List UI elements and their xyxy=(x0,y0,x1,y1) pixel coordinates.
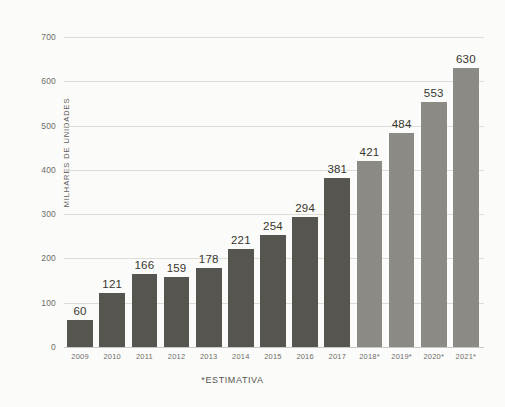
bar xyxy=(324,178,350,347)
y-axis-tick-label: 300 xyxy=(28,209,56,219)
y-axis-tick-label: 400 xyxy=(28,165,56,175)
bar-chart: MILHARES DE UNIDADES 0100200300400500600… xyxy=(0,0,505,407)
bar xyxy=(228,249,254,347)
plot-area: 60121166159178221254294381421484553630 xyxy=(64,37,482,347)
x-axis-tick-label: 2013 xyxy=(193,352,225,361)
bar-group: 630 xyxy=(453,37,479,347)
x-axis-tick-label: 2015 xyxy=(257,352,289,361)
bar-group: 166 xyxy=(132,37,158,347)
bar-group: 121 xyxy=(99,37,125,347)
x-axis-tick-label: 2018* xyxy=(353,352,385,361)
x-axis-tick-label: 2016 xyxy=(289,352,321,361)
bar xyxy=(99,293,125,347)
bar-group: 294 xyxy=(292,37,318,347)
x-axis-tick-label: 2019* xyxy=(386,352,418,361)
bar-group: 178 xyxy=(196,37,222,347)
x-axis-tick-label: 2014 xyxy=(225,352,257,361)
gridline xyxy=(64,347,484,348)
bar-value-label: 166 xyxy=(134,259,154,271)
bar xyxy=(164,277,190,347)
y-axis-tick-label: 200 xyxy=(28,253,56,263)
bar-value-label: 294 xyxy=(295,202,315,214)
bar-value-label: 421 xyxy=(360,146,380,158)
bar-value-label: 178 xyxy=(199,253,219,265)
y-axis-tick-label: 600 xyxy=(28,76,56,86)
bar xyxy=(196,268,222,347)
bar-value-label: 553 xyxy=(424,87,444,99)
x-axis-tick-label: 2010 xyxy=(96,352,128,361)
x-axis-tick-label: 2009 xyxy=(64,352,96,361)
bar-value-label: 630 xyxy=(456,53,476,65)
bar-value-label: 381 xyxy=(327,163,347,175)
bar-group: 60 xyxy=(67,37,93,347)
x-axis-tick-label: 2021* xyxy=(450,352,482,361)
bar xyxy=(453,68,479,347)
bar-value-label: 159 xyxy=(167,262,187,274)
bar xyxy=(357,161,383,347)
x-axis-tick-label: 2017 xyxy=(321,352,353,361)
y-axis-tick-label: 100 xyxy=(28,298,56,308)
bar xyxy=(421,102,447,347)
y-axis-tick-label: 700 xyxy=(28,32,56,42)
bar xyxy=(389,133,415,347)
y-axis-tick-label: 500 xyxy=(28,121,56,131)
bar-value-label: 254 xyxy=(263,220,283,232)
bar-group: 421 xyxy=(357,37,383,347)
bar-group: 553 xyxy=(421,37,447,347)
x-axis-tick-label: 2020* xyxy=(418,352,450,361)
bar xyxy=(67,320,93,347)
bar-value-label: 221 xyxy=(231,234,251,246)
bar xyxy=(132,274,158,348)
bar xyxy=(292,217,318,347)
x-axis-tick-label: 2011 xyxy=(128,352,160,361)
y-axis-tick-label: 0 xyxy=(28,342,56,352)
x-axis-tick-label: 2012 xyxy=(160,352,192,361)
bar-group: 221 xyxy=(228,37,254,347)
bar xyxy=(260,235,286,347)
bar-group: 484 xyxy=(389,37,415,347)
bar-value-label: 121 xyxy=(102,278,122,290)
bar-value-label: 484 xyxy=(392,118,412,130)
bar-group: 381 xyxy=(324,37,350,347)
chart-footnote: *ESTIMATIVA xyxy=(0,375,505,385)
bar-group: 159 xyxy=(164,37,190,347)
bar-value-label: 60 xyxy=(73,305,86,317)
bar-group: 254 xyxy=(260,37,286,347)
